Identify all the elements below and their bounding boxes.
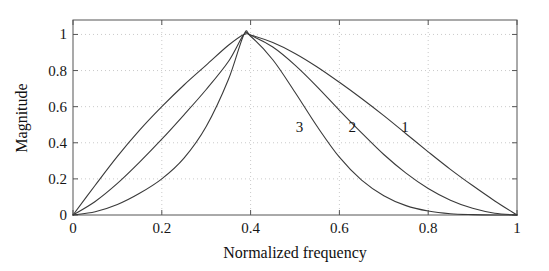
figure-container: 00.20.40.60.81 00.20.40.60.81 123 Normal… xyxy=(0,0,549,271)
y-tick-label: 0.8 xyxy=(48,63,67,78)
y-tick-label: 0.2 xyxy=(48,171,67,186)
x-tick-label: 1 xyxy=(513,221,521,236)
grid-lines xyxy=(73,20,517,215)
x-tick-label: 0 xyxy=(69,221,77,236)
x-tick-label: 0.8 xyxy=(419,221,438,236)
axes-box xyxy=(73,20,517,215)
curve-label-3: 3 xyxy=(296,120,304,135)
y-tick-label: 0 xyxy=(60,208,68,223)
y-tick-label: 0.6 xyxy=(48,99,67,114)
curve-label-1: 1 xyxy=(401,120,409,135)
y-tick-label: 0.4 xyxy=(48,135,67,150)
x-tick-label: 0.4 xyxy=(241,221,260,236)
curve-label-2: 2 xyxy=(349,120,357,135)
x-axis-title: Normalized frequency xyxy=(223,245,366,261)
x-tick-label: 0.2 xyxy=(152,221,171,236)
y-axis-title: Magnitude xyxy=(14,83,30,152)
chart-plot-area xyxy=(0,0,549,271)
x-tick-label: 0.6 xyxy=(330,221,349,236)
axis-tick-marks xyxy=(73,20,517,215)
y-tick-label: 1 xyxy=(60,27,68,42)
